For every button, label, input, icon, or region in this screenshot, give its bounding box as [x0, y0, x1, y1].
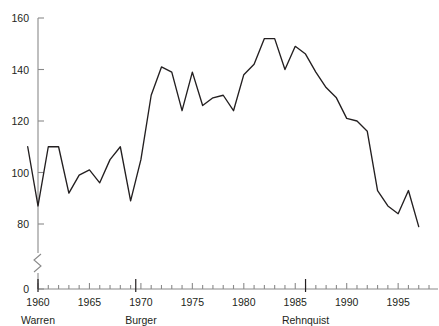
y-tick-label: 120 — [11, 115, 29, 127]
x-axis: 19601965197019751980198519901995 — [26, 283, 438, 308]
era-label-rehnquist: Rehnquist — [282, 314, 329, 326]
x-tick-label: 1985 — [284, 296, 308, 308]
axis-break-zigzag-icon — [34, 254, 41, 272]
y-tick-label: 140 — [11, 64, 29, 76]
x-tick-label: 1975 — [181, 296, 205, 308]
data-series-line — [28, 39, 419, 227]
x-tick-label: 1960 — [26, 296, 50, 308]
era-label-warren: Warren — [21, 314, 55, 326]
chart-canvas: 160140120100800 196019651970197519801985… — [0, 0, 439, 326]
y-axis: 160140120100800 — [11, 12, 44, 295]
x-tick-label: 1970 — [129, 296, 153, 308]
cases-per-term-line-chart: Number of cases, per Term 16014012010080… — [0, 0, 439, 326]
x-tick-label: 1965 — [78, 296, 102, 308]
x-tick-label: 1995 — [386, 296, 410, 308]
x-tick-label: 1990 — [335, 296, 359, 308]
y-tick-label: 0 — [23, 283, 29, 295]
series-line — [28, 39, 419, 227]
y-tick-label: 80 — [17, 218, 29, 230]
x-tick-label: 1980 — [232, 296, 256, 308]
era-label-burger: Burger — [125, 314, 157, 326]
y-tick-label: 160 — [11, 12, 29, 24]
y-tick-label: 100 — [11, 167, 29, 179]
